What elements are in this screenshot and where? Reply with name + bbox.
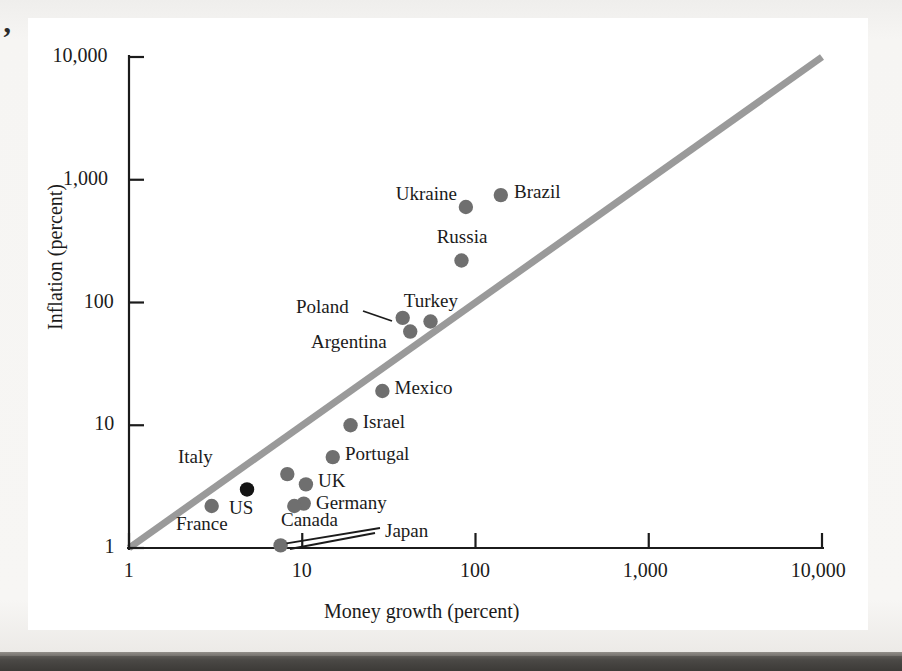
x-axis-tick-label: 1	[124, 559, 134, 582]
point-label: Canada	[281, 509, 338, 531]
data-point[interactable]	[280, 467, 294, 481]
point-label: Poland	[296, 296, 349, 318]
point-label: Israel	[363, 411, 405, 433]
data-point[interactable]	[403, 324, 417, 338]
point-label: Russia	[437, 226, 488, 248]
data-point[interactable]	[423, 314, 437, 328]
x-axis-tick-label: 10	[292, 559, 312, 582]
chart-canvas	[0, 0, 902, 652]
point-label: Turkey	[404, 290, 458, 312]
data-point[interactable]	[326, 450, 340, 464]
point-label: US	[229, 497, 253, 519]
data-point[interactable]	[459, 200, 473, 214]
point-label: Portugal	[345, 443, 409, 465]
point-label: UK	[318, 470, 345, 492]
point-label: Japan	[385, 520, 428, 542]
point-label: Argentina	[311, 331, 387, 353]
data-point[interactable]	[204, 499, 218, 513]
x-axis-tick-label: 100	[460, 559, 490, 582]
y-axis-tick-label: 100	[84, 290, 114, 313]
y-axis-tick-label: 10	[94, 412, 114, 435]
reference-line-45deg	[129, 57, 822, 548]
page-bottom-edge	[0, 652, 902, 671]
page-bottom-highlight	[0, 652, 902, 656]
data-point[interactable]	[273, 538, 287, 552]
x-axis-tick-label: 1,000	[623, 559, 668, 582]
y-axis-title: Inflation (percent)	[44, 184, 67, 330]
scatter-chart: 1101001,00010,0001101001,00010,000Money …	[0, 0, 902, 652]
point-label: France	[176, 513, 228, 535]
label-leader-line	[363, 311, 392, 321]
y-axis-tick-label: 1,000	[63, 167, 108, 190]
point-label: Ukraine	[396, 183, 457, 205]
data-point[interactable]	[240, 482, 254, 496]
point-label: Mexico	[395, 377, 453, 399]
data-point[interactable]	[454, 253, 468, 267]
x-axis-title: Money growth (percent)	[324, 600, 520, 623]
point-label: Brazil	[514, 181, 560, 203]
data-point[interactable]	[395, 311, 409, 325]
y-axis-tick-label: 10,000	[53, 44, 108, 67]
point-label: Italy	[178, 446, 213, 468]
y-axis-tick-label: 1	[105, 535, 115, 558]
data-point[interactable]	[494, 188, 508, 202]
data-point[interactable]	[375, 384, 389, 398]
data-point[interactable]	[299, 477, 313, 491]
page-root: ’ 1101001,00010,0001101001,00010,000Mone…	[0, 0, 902, 671]
data-point[interactable]	[343, 418, 357, 432]
x-axis-tick-label: 10,000	[791, 559, 846, 582]
